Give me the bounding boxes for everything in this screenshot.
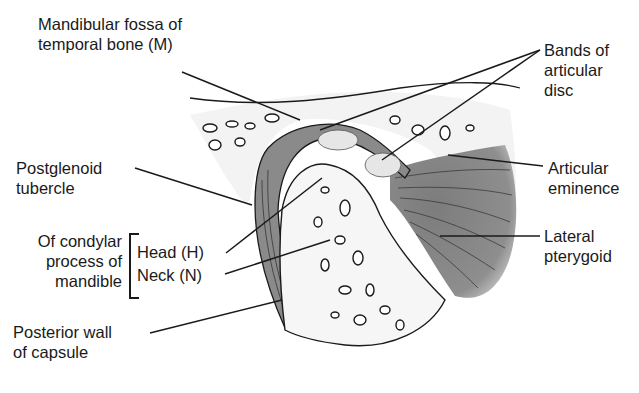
label-articular-eminence: Articular eminence	[548, 158, 620, 198]
label-neck: Neck (N)	[137, 265, 202, 285]
label-mandibular-fossa: Mandibular fossa of temporal bone (M)	[38, 14, 182, 54]
disc-posterior-band	[318, 130, 358, 150]
label-lateral-pterygoid: Lateral pterygoid	[544, 226, 612, 266]
label-condylar-process: Of condylar process of mandible	[16, 231, 122, 291]
label-posterior-wall-of-capsule: Posterior wall of capsule	[13, 322, 112, 362]
label-bands-of-articular-disc: Bands of articular disc	[544, 40, 609, 100]
label-postglenoid-tubercle: Postglenoid tubercle	[16, 158, 102, 198]
disc-anterior-band	[365, 153, 401, 177]
label-head: Head (H)	[137, 242, 204, 262]
